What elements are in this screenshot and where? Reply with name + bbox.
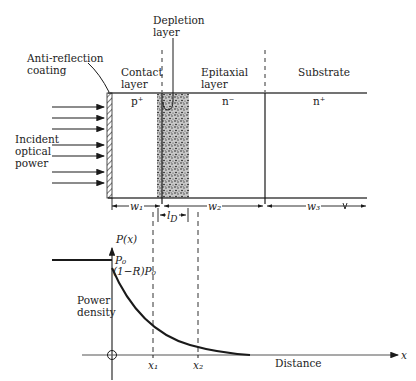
incident-arrows xyxy=(52,107,104,183)
w1-label: w₁ xyxy=(129,200,144,212)
n-minus-label: n⁻ xyxy=(222,95,234,107)
x1-label: x₁ xyxy=(148,359,158,371)
n-plus-label: n⁺ xyxy=(313,95,325,107)
substrate-label: Substrate xyxy=(298,66,350,78)
depletion-width-label: lD xyxy=(166,209,179,225)
epitaxial-layer-label: Epitaxial layer xyxy=(201,66,248,90)
depletion-layer-label: Depletion layer xyxy=(153,14,205,38)
power-density-label: Power density xyxy=(77,294,116,318)
plot-dashed-markers xyxy=(153,212,198,355)
anti-reflection-label: Anti-reflection coating xyxy=(27,52,103,76)
w2-label: w₂ xyxy=(207,200,222,212)
contact-layer-label: Contact layer xyxy=(121,66,163,90)
device-structure xyxy=(88,38,367,204)
y-axis-label: P(x) xyxy=(116,233,137,245)
p-plus-label: p⁺ xyxy=(131,95,143,107)
distance-label: Distance xyxy=(275,357,322,369)
w3-label: w₃ xyxy=(306,200,321,212)
anti-reflection-coating xyxy=(107,93,112,198)
transmitted-power-label: (1−R)P₀ xyxy=(113,265,156,277)
dimension-lines xyxy=(112,198,366,222)
incident-power-label: Incident optical power xyxy=(15,133,59,169)
power-decay-curve xyxy=(112,268,250,355)
x-axis-label: x xyxy=(401,349,407,361)
x2-label: x₂ xyxy=(193,359,203,371)
